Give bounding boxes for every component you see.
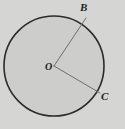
center-label-o: O [45, 62, 52, 72]
circle-diagram-svg [0, 0, 125, 129]
geometry-figure: B C O [0, 0, 125, 129]
point-label-b: B [80, 2, 87, 13]
point-label-c: C [101, 91, 108, 102]
